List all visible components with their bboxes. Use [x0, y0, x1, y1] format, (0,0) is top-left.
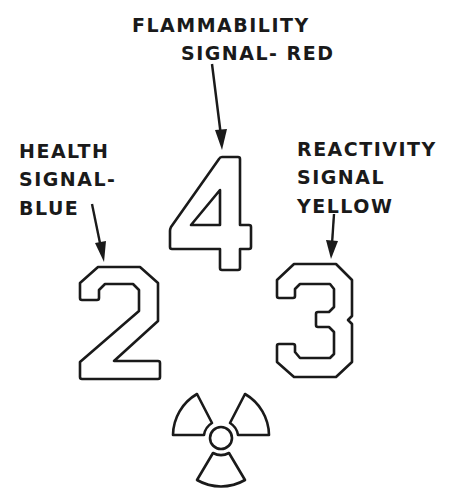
radiation-icon: [173, 394, 269, 486]
flammability-arrow-icon: [212, 64, 227, 150]
health-arrow-icon: [92, 204, 106, 262]
health-number-2: [80, 267, 160, 379]
diagram-graphics: [0, 0, 464, 504]
reactivity-arrow-icon: [326, 214, 338, 259]
hazard-diagram: FLAMMABILITY SIGNAL- RED HEALTH SIGNAL- …: [0, 0, 464, 504]
flammability-number-4: [170, 157, 251, 270]
reactivity-number-3: [277, 264, 352, 377]
